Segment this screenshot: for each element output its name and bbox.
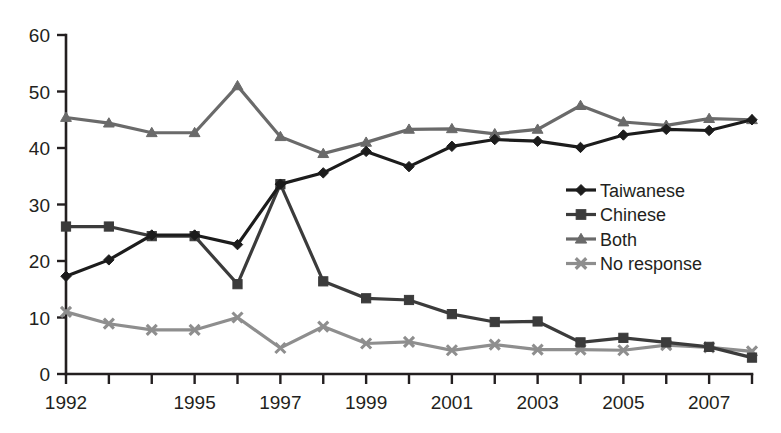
x-tick-label: 1997: [259, 392, 301, 413]
data-point-marker: [618, 130, 628, 140]
x-tick-label: 1995: [173, 392, 215, 413]
data-point-marker: [490, 317, 499, 326]
data-point-marker: [447, 310, 456, 319]
series-both: [61, 80, 758, 157]
chart-container: 0102030405060 19921995199719992001200320…: [0, 0, 781, 433]
series-line: [66, 86, 752, 154]
legend-label: Taiwanese: [600, 181, 685, 201]
data-point-marker: [318, 168, 328, 178]
y-tick-label: 40: [29, 138, 50, 159]
x-tick-label: 2001: [431, 392, 473, 413]
legend-label: No response: [600, 254, 702, 274]
data-point-marker: [576, 185, 587, 196]
line-chart: 0102030405060 19921995199719992001200320…: [0, 0, 781, 433]
data-point-marker: [575, 142, 585, 152]
y-tick-label: 0: [39, 364, 50, 385]
data-point-marker: [361, 146, 371, 156]
data-point-marker: [533, 317, 542, 326]
data-point-marker: [576, 210, 586, 220]
data-point-marker: [575, 100, 586, 109]
x-tick-label: 1992: [45, 392, 87, 413]
y-tick-label: 10: [29, 308, 50, 329]
legend-item-chinese[interactable]: Chinese: [566, 205, 666, 225]
series-no-response: [61, 307, 757, 357]
x-tick-label: 1999: [345, 392, 387, 413]
legend-item-taiwanese[interactable]: Taiwanese: [566, 181, 685, 201]
data-point-marker: [104, 222, 113, 231]
x-tick-label: 2005: [602, 392, 644, 413]
y-tick-label: 30: [29, 195, 50, 216]
legend-label: Both: [600, 230, 637, 250]
y-tick-label: 20: [29, 251, 50, 272]
data-point-marker: [747, 353, 756, 362]
data-point-marker: [232, 80, 243, 89]
legend-label: Chinese: [600, 205, 666, 225]
data-point-marker: [404, 295, 413, 304]
series-line: [66, 312, 752, 352]
x-axis: 19921995199719992001200320052007: [45, 374, 752, 413]
x-tick-label: 2003: [516, 392, 558, 413]
data-point-marker: [362, 294, 371, 303]
data-point-marker: [61, 271, 71, 281]
data-point-marker: [619, 333, 628, 342]
legend-item-both[interactable]: Both: [566, 230, 637, 250]
data-point-marker: [705, 342, 714, 351]
data-point-marker: [447, 141, 457, 151]
y-axis: 0102030405060: [29, 25, 66, 385]
y-tick-label: 60: [29, 25, 50, 46]
data-point-marker: [704, 125, 714, 135]
data-point-marker: [532, 136, 542, 146]
data-point-marker: [404, 161, 414, 171]
data-point-marker: [233, 280, 242, 289]
x-tick-label: 2007: [688, 392, 730, 413]
data-point-marker: [319, 277, 328, 286]
legend-item-no-response[interactable]: No response: [566, 254, 702, 274]
data-point-marker: [662, 338, 671, 347]
data-point-marker: [61, 222, 70, 231]
chart-legend: TaiwaneseChineseBothNo response: [566, 181, 702, 275]
y-tick-label: 50: [29, 82, 50, 103]
data-point-marker: [576, 338, 585, 347]
